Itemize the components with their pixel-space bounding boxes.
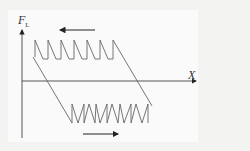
diagram-canvas: FL X [0, 0, 250, 151]
left-diagonal [33, 57, 72, 123]
y-axis-label-subscript: L [25, 21, 29, 29]
y-axis-label: FL [18, 14, 30, 29]
x-axis-label: X [188, 69, 195, 81]
top-sawtooth [35, 40, 113, 59]
x-axis-label-text: X [188, 68, 195, 82]
right-diagonal [113, 40, 152, 106]
bottom-sawtooth [72, 104, 148, 123]
hysteresis-plot [0, 0, 250, 151]
